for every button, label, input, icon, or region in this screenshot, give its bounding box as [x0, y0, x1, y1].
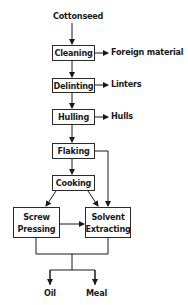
step-cooking: Cooking: [52, 175, 95, 191]
byproduct-linters: Linters: [111, 79, 141, 89]
solvent-extracting-line1: Solvent: [91, 211, 124, 223]
step-screw-pressing: Screw Pressing: [13, 207, 60, 238]
byproduct-foreign-material: Foreign material: [111, 47, 183, 57]
step-cleaning: Cleaning: [52, 45, 95, 61]
byproduct-hulls: Hulls: [111, 111, 133, 121]
screw-pressing-line2: Pressing: [18, 223, 56, 235]
step-flaking: Flaking: [52, 143, 95, 159]
output-oil: Oil: [44, 288, 56, 298]
step-solvent-extracting: Solvent Extracting: [85, 207, 131, 238]
input-label: Cottonseed: [53, 11, 103, 21]
solvent-extracting-line2: Extracting: [85, 223, 130, 235]
screw-pressing-line1: Screw: [23, 211, 50, 223]
output-meal: Meal: [86, 288, 107, 298]
step-delinting: Delinting: [52, 78, 95, 93]
step-hulling: Hulling: [52, 109, 95, 125]
